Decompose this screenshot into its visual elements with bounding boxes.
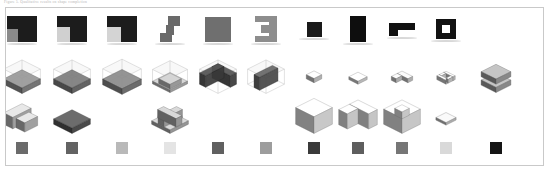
swatch-cell-10 bbox=[423, 130, 469, 166]
results-grid-panel bbox=[5, 7, 544, 166]
silhouette-shadow bbox=[251, 43, 281, 45]
iso-tiny-cube bbox=[291, 51, 337, 89]
iso-gt-empty-5 bbox=[195, 91, 241, 129]
recon-cell-2 bbox=[49, 50, 95, 90]
silhouette-shadow bbox=[299, 38, 329, 40]
swatch-cell-8 bbox=[335, 130, 381, 166]
silhouette-cell-4 bbox=[147, 8, 193, 50]
swatch-cell-11 bbox=[473, 130, 519, 166]
row-ground-truth-voxels bbox=[6, 90, 543, 130]
block-l-flag bbox=[389, 23, 415, 36]
gt-cell-7 bbox=[291, 90, 337, 130]
block-l-flag-part-2 bbox=[389, 29, 398, 36]
silhouette-cell-10 bbox=[423, 8, 469, 50]
iso-gt-hex-shell bbox=[379, 91, 425, 129]
block-ring-square-part-2 bbox=[442, 25, 450, 33]
swatch-10 bbox=[440, 142, 452, 154]
gt-cell-10 bbox=[423, 90, 469, 130]
swatch-2 bbox=[66, 142, 78, 154]
block-small-square-part-1 bbox=[307, 22, 322, 37]
block-tall-rect bbox=[350, 16, 366, 42]
gt-cell-6 bbox=[243, 90, 289, 130]
gt-cell-3 bbox=[99, 90, 145, 130]
gt-cell-1 bbox=[5, 90, 45, 130]
swatch-9 bbox=[396, 142, 408, 154]
block-small-square bbox=[307, 22, 322, 37]
silhouette-cell-9 bbox=[379, 8, 425, 50]
silhouette-shadow bbox=[387, 37, 417, 39]
block-solid-square bbox=[205, 17, 231, 42]
swatch-cell-5 bbox=[195, 130, 241, 166]
swatch-8 bbox=[352, 142, 364, 154]
silhouette-cell-3 bbox=[99, 8, 145, 50]
iso-hex-ring bbox=[423, 51, 469, 89]
swatch-cell-3 bbox=[99, 130, 145, 166]
silhouette-shadow bbox=[155, 43, 185, 45]
recon-cell-8 bbox=[335, 50, 381, 90]
gt-cell-11 bbox=[473, 90, 519, 130]
row-color-legend bbox=[6, 130, 543, 166]
block-square-notch-3 bbox=[107, 16, 137, 42]
recon-cell-1 bbox=[5, 50, 45, 90]
block-c-bracket bbox=[255, 16, 277, 42]
row-input-silhouettes bbox=[6, 8, 543, 50]
swatch-4 bbox=[164, 142, 176, 154]
silhouette-shadow bbox=[57, 43, 87, 45]
silhouette-cell-2 bbox=[49, 8, 95, 50]
block-square-notch-2-part-2 bbox=[57, 27, 70, 42]
recon-cell-5 bbox=[195, 50, 241, 90]
swatch-1 bbox=[16, 142, 28, 154]
silhouette-shadow bbox=[343, 43, 373, 45]
silhouette-shadow bbox=[107, 43, 137, 45]
recon-cell-4 bbox=[147, 50, 193, 90]
iso-slab-low bbox=[5, 51, 45, 89]
iso-slab-wide bbox=[99, 51, 145, 89]
gt-cell-8 bbox=[335, 90, 381, 130]
silhouette-cell-8 bbox=[335, 8, 381, 50]
iso-gt-slab bbox=[49, 91, 95, 129]
iso-gt-empty-11 bbox=[473, 91, 519, 129]
block-s-step bbox=[160, 16, 180, 42]
swatch-3 bbox=[116, 142, 128, 154]
recon-cell-7 bbox=[291, 50, 337, 90]
silhouette-shadow bbox=[431, 40, 461, 42]
iso-gt-empty-3 bbox=[99, 91, 145, 129]
iso-notch-step bbox=[147, 51, 193, 89]
swatch-6 bbox=[260, 142, 272, 154]
block-c-bracket-part-3 bbox=[255, 36, 277, 42]
gt-cell-4 bbox=[147, 90, 193, 130]
silhouette-cell-6 bbox=[243, 8, 289, 50]
iso-stack-pair bbox=[473, 51, 519, 89]
silhouette-shadow bbox=[7, 43, 37, 45]
block-s-step-part-3 bbox=[160, 33, 172, 42]
swatch-cell-1 bbox=[5, 130, 45, 166]
iso-gt-pair bbox=[5, 91, 45, 129]
recon-cell-11 bbox=[473, 50, 519, 90]
figure-caption: Figure 5. Qualitative results on shape c… bbox=[4, 0, 87, 5]
block-square-notch-2 bbox=[57, 16, 87, 42]
iso-slab-thin bbox=[49, 51, 95, 89]
iso-open-corner bbox=[195, 51, 241, 89]
iso-tiny-plate bbox=[335, 51, 381, 89]
silhouette-cell-5 bbox=[195, 8, 241, 50]
iso-gt-small-slab bbox=[423, 91, 469, 129]
swatch-cell-9 bbox=[379, 130, 425, 166]
block-solid-square-part-1 bbox=[205, 17, 231, 42]
silhouette-cell-7 bbox=[291, 8, 337, 50]
recon-cell-9 bbox=[379, 50, 425, 90]
iso-gt-concave bbox=[335, 91, 381, 129]
silhouette-shadow bbox=[203, 43, 233, 45]
gt-cell-9 bbox=[379, 90, 425, 130]
recon-cell-10 bbox=[423, 50, 469, 90]
gt-cell-5 bbox=[195, 90, 241, 130]
row-reconstructed-voxels bbox=[6, 50, 543, 90]
swatch-cell-7 bbox=[291, 130, 337, 166]
block-square-notch-1 bbox=[7, 16, 37, 42]
iso-gt-tall-cube bbox=[291, 91, 337, 129]
block-tall-rect-part-1 bbox=[350, 16, 366, 42]
block-ring-square bbox=[436, 19, 456, 39]
iso-gt-crossbox bbox=[147, 91, 193, 129]
swatch-cell-2 bbox=[49, 130, 95, 166]
block-square-notch-3-part-2 bbox=[107, 27, 121, 42]
silhouette-cell-1 bbox=[5, 8, 45, 50]
